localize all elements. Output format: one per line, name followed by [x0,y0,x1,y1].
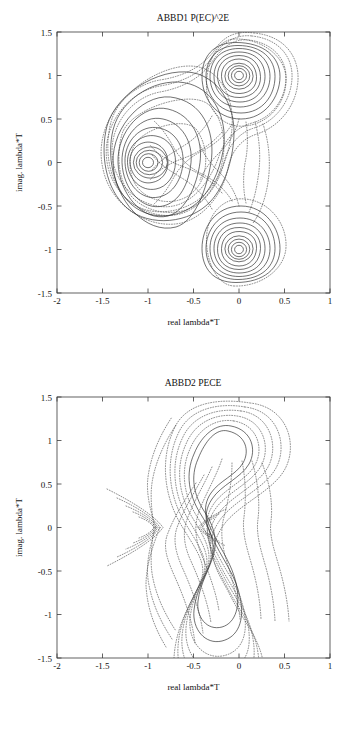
x-tick-label: 0.5 [279,661,291,671]
contour-ring [139,154,158,172]
y-tick-label: 1 [48,436,53,446]
contour-ring [217,56,260,98]
contour-separatrix [147,528,172,640]
y-axis-label: imag. lambda*T [14,133,24,192]
x-tick-label: 0.5 [279,296,291,306]
contour-ring [127,136,175,190]
y-ticks [57,32,330,293]
x-tick-label: -0.5 [186,661,201,671]
plot-area-abbd1: -2 -1.5 -1 -0.5 0 0.5 1 1.5 1 0.5 0 -0.5… [14,28,332,328]
saddle-marker [139,517,154,538]
y-tick-label: -1.5 [38,654,53,664]
contour-ring [235,245,244,253]
contour-separatrix [152,155,212,209]
contour-envelope [106,36,292,216]
chart-title: ABBD2 PECE [165,378,222,388]
contour-ring [231,242,246,256]
figure-page: ABBD1 P(EC)^2E [0,0,359,730]
contour-separatrix [147,417,172,528]
contour-ring [184,420,259,656]
contour-envelope [112,40,286,207]
contour-ring [217,227,260,269]
y-tick-label: -0.5 [38,567,53,577]
contour-ring [210,218,270,277]
y-tick-label: 0.5 [41,115,53,125]
contour-lines-abbd1 [101,32,298,286]
x-tick-labels: -2 -1.5 -1 -0.5 0 0.5 1 [53,661,332,671]
x-tick-label: -1.5 [95,296,110,306]
contour-ring [143,157,154,167]
y-tick-label: -1.5 [38,289,53,299]
x-axis-label: real lambda*T [167,682,220,692]
contour-ring [122,118,191,206]
contour-separatrix [146,528,166,648]
plot-area-abbd2: -2 -1.5 -1 -0.5 0 0.5 1 1.5 1 0.5 0 -0.5… [14,393,332,725]
chart-abbd2-svg: ABBD2 PECE [0,365,359,730]
chart-title: ABBD1 P(EC)^2E [157,13,229,24]
y-tick-label: -1 [45,610,53,620]
x-tick-label: -1 [144,661,152,671]
contour-envelope [101,32,298,224]
y-tick-label: 0.5 [41,480,53,490]
contour-separatrix [166,483,196,643]
x-tick-label: 0 [237,296,242,306]
saddle-marker [126,506,158,549]
y-tick-label: 0 [48,158,53,168]
x-tick-label: -0.5 [186,296,201,306]
contour-ring [221,231,256,266]
contour-separatrix [253,124,269,223]
x-tick-label: -1.5 [95,661,110,671]
chart-abbd1: ABBD1 P(EC)^2E [0,0,359,365]
x-tick-label: 1 [328,296,333,306]
x-axis-label: real lambda*T [167,317,220,327]
contour-ring [225,63,253,89]
chart-abbd2: ABBD2 PECE [0,365,359,730]
x-tick-label: -2 [53,661,61,671]
chart-abbd1-svg: ABBD1 P(EC)^2E [0,0,359,365]
y-tick-label: 1 [48,71,53,81]
y-tick-label: -0.5 [38,202,53,212]
contour-separatrix [244,122,248,203]
contour-ring [210,49,270,108]
saddle-marker [107,489,163,566]
contour-separatrix [151,425,176,528]
contour-ring [231,68,246,82]
y-tick-labels: 1.5 1 0.5 0 -0.5 -1 -1.5 [38,28,53,299]
x-tick-label: -1 [144,296,152,306]
y-tick-label: -1 [45,245,53,255]
contour-separatrix [151,528,176,632]
x-ticks [57,32,330,293]
y-tick-label: 1.5 [41,393,53,403]
contour-lines-abbd2 [107,401,290,724]
x-tick-label: 1 [328,661,333,671]
y-tick-labels: 1.5 1 0.5 0 -0.5 -1 -1.5 [38,393,53,664]
x-tick-labels: -2 -1.5 -1 -0.5 0 0.5 1 [53,296,332,306]
contour-ring [235,71,244,79]
contour-separatrix [242,461,261,619]
contour-separatrix [200,119,239,180]
y-axis-label: imag. lambda*T [14,498,24,557]
x-tick-label: -2 [53,296,61,306]
x-tick-label: 0 [237,661,242,671]
contour-ring [225,236,253,262]
contour-ring [108,66,232,212]
y-tick-label: 0 [48,523,53,533]
plot-frame [57,32,330,293]
contour-ring [165,401,290,724]
y-tick-label: 1.5 [41,28,53,38]
contour-ring [221,59,256,94]
contour-separatrix [262,463,289,621]
contour-ring [175,410,273,688]
contour-separatrix [249,122,260,212]
